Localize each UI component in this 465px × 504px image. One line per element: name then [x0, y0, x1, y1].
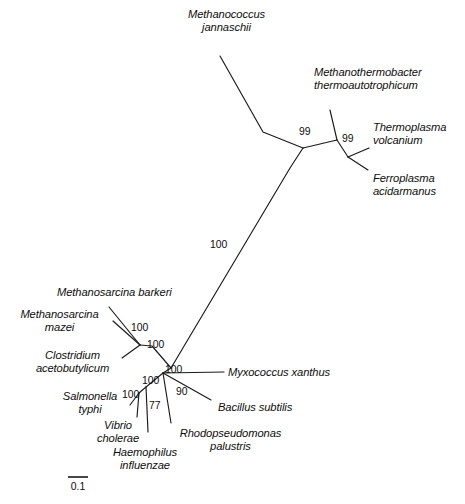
taxon-label-rhodopseudomonas-palustris: Rhodopseudomonaspalustris [168, 427, 293, 453]
br-long-trunk [171, 148, 303, 368]
taxon-label-line: Thermoplasma [373, 121, 461, 134]
taxon-label-vibrio-cholerae: Vibriocholerae [88, 419, 148, 445]
br-rhodopseudomonas [163, 373, 171, 423]
support-archaea-upper: 99 [299, 126, 311, 137]
taxon-label-salmonella-typhi: Salmonellatyphi [57, 390, 123, 416]
taxon-label-line: cholerae [88, 432, 148, 445]
support-enterobacteria: 100 [122, 389, 139, 400]
taxon-label-line: thermoautotrophicum [314, 79, 459, 92]
br-thermoplasma [348, 148, 369, 157]
taxon-label-bacillus-subtilis: Bacillus subtilis [218, 401, 310, 414]
br-methanothermo [330, 110, 337, 140]
support-myxococcus: 100 [165, 364, 182, 375]
taxon-label-line: volcanium [373, 134, 461, 147]
support-bacteria-archaea-split: 100 [210, 239, 227, 250]
taxon-label-line: Ferroplasma [373, 172, 461, 185]
taxon-label-line: Myxococcus xanthus [228, 366, 348, 379]
taxon-label-line: palustris [168, 440, 293, 453]
scale-bar-caption: 0.1 [58, 481, 98, 492]
support-methanosarcina: 100 [131, 322, 148, 333]
taxon-label-line: Methanothermobacter [314, 66, 459, 79]
br-ferroplasma [348, 157, 368, 170]
support-bacillus: 90 [176, 386, 188, 397]
taxon-label-thermoplasma-volcanium: Thermoplasmavolcanium [373, 121, 461, 147]
support-methanosarcina-clade: 100 [147, 339, 164, 350]
taxon-label-line: Salmonella [57, 390, 123, 403]
support-core-node: 100 [142, 375, 159, 386]
taxon-label-line: acetobutylicum [26, 362, 119, 375]
taxon-label-line: acidarmanus [373, 185, 461, 198]
taxon-label-myxococcus-xanthus: Myxococcus xanthus [228, 366, 348, 379]
taxon-label-methanosarcina-barkeri: Methanosarcina barkeri [57, 286, 197, 299]
taxon-label-methanococcus-jannaschii: Methanococcusjannaschii [169, 8, 284, 34]
taxon-label-line: Bacillus subtilis [218, 401, 310, 414]
br-clostridium [122, 345, 140, 358]
support-gammaproteobacteria: 77 [149, 400, 161, 411]
br-archaea-internal [303, 140, 337, 148]
taxon-label-methanosarcina-mazei: Methanosarcinamazei [8, 308, 111, 334]
br-jannaschii [220, 56, 303, 148]
br-entero-node [139, 387, 146, 393]
support-thermoplasmatales: 99 [342, 133, 354, 144]
taxon-label-line: Clostridium [26, 349, 119, 362]
taxon-label-line: jannaschii [169, 21, 284, 34]
taxon-label-line: typhi [57, 403, 123, 416]
taxon-label-line: influenzae [104, 459, 186, 472]
phylogenetic-tree-figure: MethanococcusjannaschiiMethanothermobact… [0, 0, 465, 504]
taxon-label-line: Rhodopseudomonas [168, 427, 293, 440]
taxon-label-line: Methanococcus [169, 8, 284, 21]
taxon-label-methanothermobacter-thermoautotrophicum: Methanothermobacterthermoautotrophicum [314, 66, 459, 92]
taxon-label-line: Methanosarcina barkeri [57, 286, 197, 299]
taxon-label-clostridium-acetobutylicum: Clostridiumacetobutylicum [26, 349, 119, 375]
taxon-label-line: mazei [8, 321, 111, 334]
taxon-label-line: Methanosarcina [8, 308, 111, 321]
taxon-label-ferroplasma-acidarmanus: Ferroplasmaacidarmanus [373, 172, 461, 198]
taxon-label-line: Vibrio [88, 419, 148, 432]
